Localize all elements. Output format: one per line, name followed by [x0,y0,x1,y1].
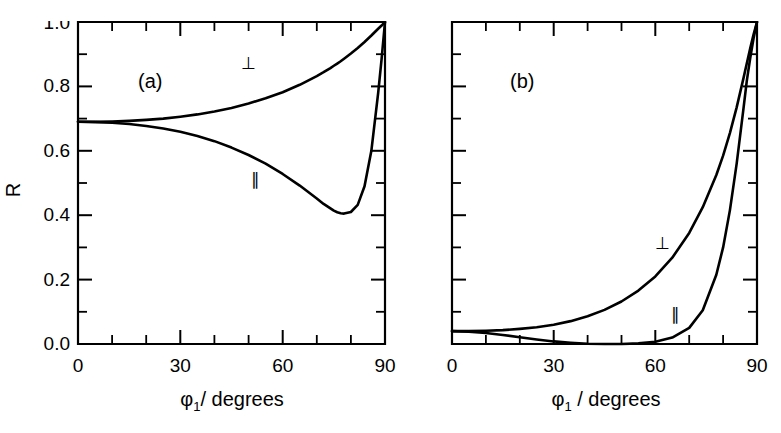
y-ticklabel-2: 0.4 [44,204,71,225]
x-ticklabel-3: 90 [374,355,395,376]
x-ticklabel-0: 0 [447,355,458,376]
top-clip-mask [0,0,781,21]
phi-glyph: φ [180,388,193,410]
panel-b-tag: (b) [510,70,534,92]
panel-a-y-minor-ticks [78,54,87,312]
panel-a-y-right-ticks [371,22,385,344]
panel-a-x-top-ticks [78,22,385,36]
panel-a-x-major-ticks [78,330,385,344]
x-ticklabel-3: 90 [746,355,767,376]
phi-subscript: 1 [193,399,200,414]
panel-a-x-axis-label: φ1/ degrees [180,388,284,414]
panel-a-x-minor-ticks [112,335,351,344]
panel-b-perpendicular-label: ⊥ [655,234,670,253]
panel-b-x-top-ticks [452,22,757,36]
panel-a-y-ticklabels: 0.0 0.2 0.4 0.6 0.8 1.0 [44,12,71,354]
panel-a-curve-parallel [78,22,385,214]
x-ticklabel-1: 30 [170,355,191,376]
y-ticklabel-1: 0.2 [44,269,70,290]
panel-b-axis-frame [452,22,757,344]
panel-b-x-axis-label: φ1 / degrees [551,388,660,414]
y-ticklabel-3: 0.6 [44,140,70,161]
y-ticklabel-0: 0.0 [44,333,70,354]
panel-b: 0 30 60 90 φ1 / degrees (b) ⊥ ∥ [447,22,768,414]
phi-glyph-b: φ [551,388,564,410]
panel-a-x-ticklabels: 0 30 60 90 [73,355,396,376]
x-ticklabel-2: 60 [645,355,666,376]
panel-a-parallel-label: ∥ [251,170,260,189]
phi-subscript-b: 1 [564,399,571,414]
panel-b-parallel-label: ∥ [671,305,680,324]
panel-b-x-major-ticks [452,330,757,344]
reflectance-vs-angle-figure: 0.0 0.2 0.4 0.6 0.8 1.0 0 30 60 90 R φ1/… [0,0,781,433]
x-ticklabel-2: 60 [272,355,293,376]
panel-b-x-ticklabels: 0 30 60 90 [447,355,768,376]
panel-a-curve-perpendicular [78,22,385,122]
panel-a-axis-frame [78,22,385,344]
panel-a: 0.0 0.2 0.4 0.6 0.8 1.0 0 30 60 90 R φ1/… [2,12,396,414]
figure-container: 0.0 0.2 0.4 0.6 0.8 1.0 0 30 60 90 R φ1/… [0,0,781,433]
panel-b-y-minor-ticks [452,54,461,312]
panel-a-perpendicular-label: ⊥ [241,54,256,73]
x-ticklabel-0: 0 [73,355,84,376]
x-ticklabel-1: 30 [543,355,564,376]
panel-b-curve-parallel [452,22,757,344]
panel-a-tag: (a) [138,70,162,92]
y-axis-label: R [2,183,24,197]
y-ticklabel-4: 0.8 [44,75,70,96]
